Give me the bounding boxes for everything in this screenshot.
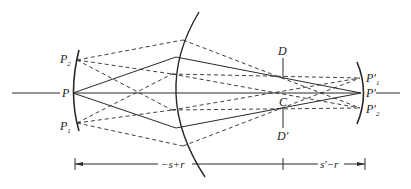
label-P: P bbox=[61, 86, 70, 100]
arrow-right bbox=[357, 162, 365, 166]
optical-diagram: P2 P P1 D C D′ P′1 P′ P′2 −s+r s′−r bbox=[0, 0, 411, 189]
label-P-prime: P′ bbox=[365, 86, 376, 100]
label-C: C bbox=[279, 95, 288, 109]
dimension-left-label: −s+r bbox=[161, 158, 185, 170]
label-P1-prime: P′1 bbox=[365, 71, 379, 87]
label-D-prime: D′ bbox=[276, 129, 289, 143]
label-P2-prime: P′2 bbox=[365, 102, 380, 118]
label-P1: P1 bbox=[59, 119, 71, 135]
left-mirror bbox=[74, 50, 80, 131]
label-D: D bbox=[277, 44, 287, 58]
label-P2: P2 bbox=[59, 52, 71, 68]
arrow-left bbox=[75, 162, 83, 166]
central-mirror bbox=[176, 12, 205, 177]
dimension-right-label: s′−r bbox=[320, 158, 339, 170]
